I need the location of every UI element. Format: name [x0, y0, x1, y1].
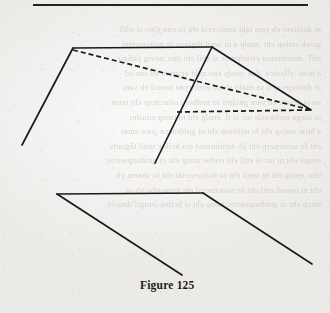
figure-caption: Figure 125: [140, 279, 195, 291]
folded-plane-edges: [57, 193, 312, 275]
middle-front-edge: [155, 47, 212, 163]
hidden-diagonal: [73, 50, 311, 110]
figure-125-drawing: [0, 0, 330, 313]
left-front-edge: [22, 48, 73, 145]
scanned-page: ni detaiver eb yam taht snoitcerid eht f…: [0, 0, 330, 313]
right-back-edge: [212, 47, 311, 110]
hidden-base-line: [177, 110, 311, 112]
tent-solid-edges: [22, 47, 311, 163]
right-slanted-edge: [203, 193, 312, 264]
tent-hidden-edges: [73, 50, 311, 112]
top-horizontal-edge: [57, 193, 203, 194]
left-slanted-edge: [57, 194, 182, 275]
ridge-line: [73, 47, 212, 48]
